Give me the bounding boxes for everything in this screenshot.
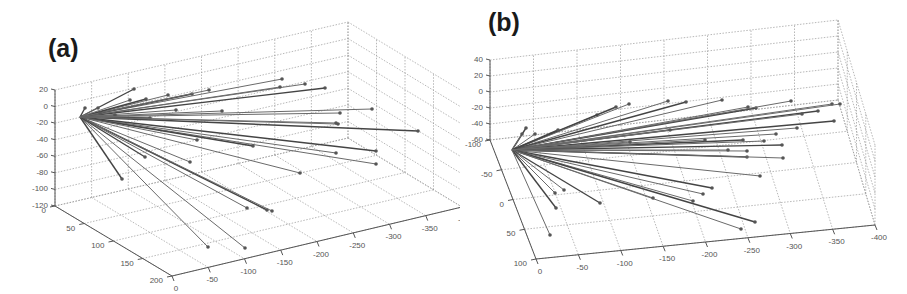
svg-text:-60: -60 — [36, 151, 48, 160]
svg-text:-350: -350 — [422, 224, 439, 233]
svg-text:-150: -150 — [277, 258, 294, 267]
svg-text:-250: -250 — [744, 246, 761, 255]
svg-text:0: 0 — [44, 102, 49, 111]
svg-text:-20: -20 — [471, 103, 483, 112]
svg-text:-200: -200 — [701, 250, 718, 259]
svg-text:100: 100 — [91, 241, 105, 250]
svg-text:40: 40 — [474, 55, 483, 64]
3d-ray-plot-a: 200-20-40-60-80-100-1200501001502000-50-… — [0, 0, 460, 294]
svg-text:50: 50 — [507, 229, 516, 238]
svg-text:0: 0 — [500, 200, 505, 209]
svg-text:0: 0 — [174, 284, 179, 293]
svg-text:-100: -100 — [240, 267, 257, 276]
svg-text:-120: -120 — [32, 201, 49, 210]
svg-text:20: 20 — [39, 85, 48, 94]
svg-text:-20: -20 — [36, 118, 48, 127]
svg-text:-300: -300 — [385, 232, 402, 241]
svg-text:0: 0 — [538, 267, 543, 276]
svg-text:0: 0 — [479, 87, 484, 96]
svg-text:-400: -400 — [871, 233, 888, 242]
svg-text:-200: -200 — [313, 250, 330, 259]
svg-text:-50: -50 — [577, 263, 589, 272]
svg-text:-100: -100 — [32, 184, 49, 193]
3d-ray-plot-b: 40200-20-40-60-100-500501000-50-100-150-… — [460, 0, 907, 294]
svg-text:-40: -40 — [471, 119, 483, 128]
svg-text:0: 0 — [42, 206, 47, 215]
svg-text:150: 150 — [120, 259, 134, 268]
svg-text:-80: -80 — [36, 168, 48, 177]
chart-panel-a: (a) 200-20-40-60-80-100-1200501001502000… — [0, 0, 460, 294]
svg-text:-300: -300 — [786, 242, 803, 251]
svg-text:-250: -250 — [349, 241, 366, 250]
svg-text:-100: -100 — [617, 259, 634, 268]
chart-panel-b: (b) 40200-20-40-60-100-500501000-50-100-… — [460, 0, 907, 294]
svg-text:-50: -50 — [206, 275, 218, 284]
svg-text:200: 200 — [150, 276, 164, 285]
svg-text:-100: -100 — [465, 140, 482, 149]
svg-text:-40: -40 — [36, 135, 48, 144]
svg-text:100: 100 — [514, 259, 528, 268]
svg-text:20: 20 — [474, 71, 483, 80]
svg-text:-150: -150 — [659, 254, 676, 263]
svg-text:50: 50 — [66, 224, 75, 233]
svg-text:-350: -350 — [829, 237, 846, 246]
svg-text:-50: -50 — [481, 170, 493, 179]
